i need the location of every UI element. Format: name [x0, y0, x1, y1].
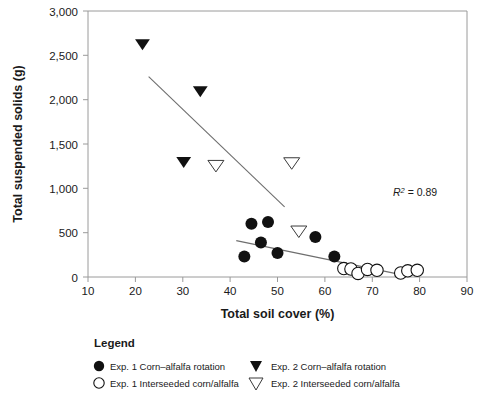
- series-2: [135, 39, 208, 168]
- exp2-trend: [149, 77, 285, 207]
- filled-triangle-down-data-point: [135, 39, 150, 50]
- y-tick-label: 1,000: [49, 183, 78, 195]
- svg-text:R2 = 0.89: R2 = 0.89: [393, 186, 437, 199]
- filled-triangle-down-icon: [250, 361, 262, 372]
- scatter-plot-svg: 3,000 2,500 2,000 1,500 1,000 500 0 10 2…: [0, 0, 477, 396]
- x-tick-label: 30: [176, 285, 189, 297]
- open-triangle-down-icon: [249, 378, 263, 390]
- chart-figure: 3,000 2,500 2,000 1,500 1,000 500 0 10 2…: [0, 0, 477, 396]
- r-squared-annotation: R2 = 0.89: [393, 186, 437, 199]
- y-tick-label: 500: [59, 227, 78, 239]
- legend-item-exp2-interseeded[interactable]: Exp. 2 Interseeded corn/alfalfa: [249, 378, 401, 391]
- filled-triangle-down-data-point: [193, 86, 208, 97]
- x-tick-label: 10: [82, 285, 95, 297]
- legend-item-label: Exp. 1 Corn–alfalfa rotation: [110, 361, 225, 372]
- legend-item-exp2-corn-alfalfa[interactable]: Exp. 2 Corn–alfalfa rotation: [250, 361, 386, 373]
- x-axis-title: Total soil cover (%): [221, 307, 335, 321]
- y-tick-label: 3,000: [49, 6, 78, 18]
- r-squared-value: = 0.89: [405, 186, 438, 198]
- filled-circle-data-point: [255, 236, 267, 248]
- x-tick-label: 20: [129, 285, 142, 297]
- open-circle-data-point: [411, 264, 423, 276]
- x-axis-ticks: 10 20 30 40 50 60 70 80 90: [82, 277, 474, 297]
- open-triangle-down-data-point: [291, 226, 307, 238]
- filled-circle-data-point: [328, 251, 340, 263]
- filled-triangle-down-data-point: [176, 157, 191, 168]
- y-axis-title: Total suspended solids (g): [11, 65, 25, 222]
- plot-axes: [88, 11, 467, 277]
- y-tick-label: 2,500: [49, 50, 78, 62]
- data-markers-layer: [135, 39, 423, 279]
- x-tick-label: 50: [271, 285, 284, 297]
- filled-circle-data-point: [309, 231, 321, 243]
- x-tick-label: 60: [319, 285, 332, 297]
- y-axis-ticks: 3,000 2,500 2,000 1,500 1,000 500 0: [49, 6, 88, 284]
- legend-item-label: Exp. 1 Interseeded corn/alfalfa: [110, 378, 240, 389]
- filled-circle-data-point: [238, 251, 250, 263]
- y-tick-label: 2,000: [49, 94, 78, 106]
- x-tick-label: 40: [224, 285, 237, 297]
- open-circle-icon: [94, 378, 104, 388]
- legend-title: Legend: [94, 337, 135, 349]
- series-3: [208, 158, 307, 238]
- series-0: [238, 216, 340, 263]
- x-tick-label: 80: [413, 285, 426, 297]
- x-tick-label: 90: [461, 285, 474, 297]
- legend-item-label: Exp. 2 Interseeded corn/alfalfa: [271, 378, 401, 389]
- legend-item-exp1-interseeded[interactable]: Exp. 1 Interseeded corn/alfalfa: [94, 378, 240, 389]
- x-tick-label: 70: [366, 285, 379, 297]
- legend: Legend Exp. 1 Corn–alfalfa rotation Exp.…: [94, 337, 401, 390]
- open-triangle-down-data-point: [284, 158, 300, 170]
- filled-circle-data-point: [262, 216, 274, 228]
- filled-circle-icon: [94, 361, 104, 371]
- y-tick-label: 0: [72, 272, 78, 284]
- trend-lines-layer: [149, 77, 400, 275]
- y-tick-label: 1,500: [49, 139, 78, 151]
- legend-item-exp1-corn-alfalfa[interactable]: Exp. 1 Corn–alfalfa rotation: [94, 361, 225, 372]
- filled-circle-data-point: [245, 218, 257, 230]
- open-circle-data-point: [371, 264, 383, 276]
- legend-item-label: Exp. 2 Corn–alfalfa rotation: [271, 361, 386, 372]
- open-triangle-down-data-point: [208, 160, 224, 172]
- filled-circle-data-point: [272, 247, 284, 259]
